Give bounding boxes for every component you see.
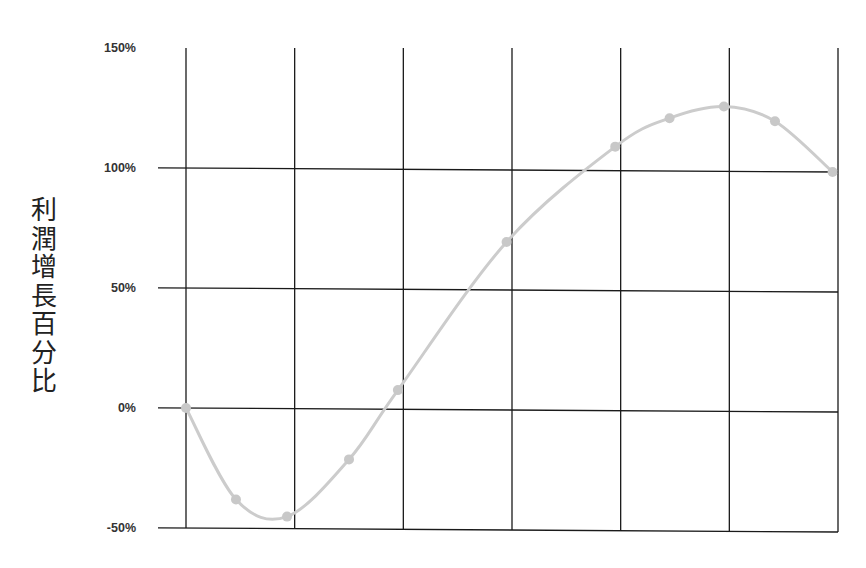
data-point-marker [828, 167, 838, 177]
data-point-marker [231, 495, 241, 505]
data-series [181, 102, 838, 522]
plot-area: 150%100%50%0%-50% [0, 0, 866, 568]
data-point-marker [502, 237, 512, 247]
horizontal-gridline [158, 408, 838, 412]
data-point-marker [393, 385, 403, 395]
gridlines [158, 48, 838, 532]
horizontal-gridline [158, 168, 838, 172]
data-point-marker [770, 116, 780, 126]
data-point-marker [665, 113, 675, 123]
horizontal-gridline [158, 528, 838, 532]
data-point-marker [719, 102, 729, 112]
y-tick-label: 100% [104, 161, 136, 175]
horizontal-gridline [158, 288, 838, 292]
y-tick-label: 50% [111, 281, 136, 295]
data-point-marker [181, 403, 191, 413]
y-tick-label: -50% [107, 521, 136, 535]
y-tick-label: 0% [118, 401, 136, 415]
data-point-marker [282, 512, 292, 522]
y-tick-label: 150% [104, 41, 136, 55]
chart: 利潤增長百分比 150%100%50%0%-50% [0, 0, 866, 568]
data-point-marker [344, 454, 354, 464]
y-axis-ticks: 150%100%50%0%-50% [104, 41, 136, 535]
data-point-marker [610, 142, 620, 152]
